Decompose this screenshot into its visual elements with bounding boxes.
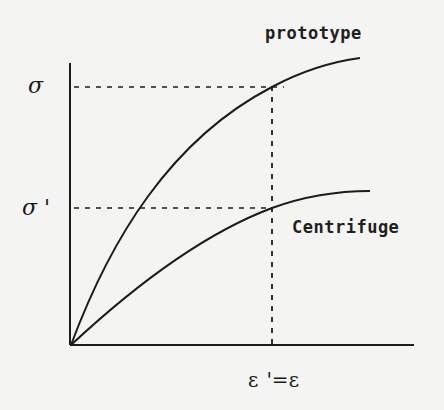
sigma-label: σ	[28, 75, 43, 97]
epsilon-symbol: ε	[289, 368, 299, 392]
prototype-curve	[71, 58, 360, 345]
centrifuge-label: Centrifuge	[292, 219, 399, 236]
epsilon-prime-symbol: ε	[248, 368, 258, 392]
prime-equals-symbol: '=	[266, 368, 288, 392]
centrifuge-curve	[71, 191, 370, 345]
sigma-prime-label: σ '	[22, 197, 50, 219]
epsilon-axis-label: ε'=ε	[248, 370, 299, 390]
stress-strain-diagram	[0, 0, 444, 410]
prototype-label: prototype	[265, 25, 362, 42]
